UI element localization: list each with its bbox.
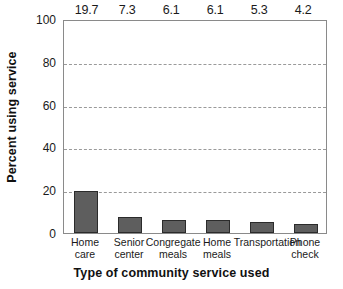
bar-chart-figure: Percent using service 020406080100 19.77… [0, 0, 343, 289]
y-axis-title: Percent using service [0, 0, 24, 234]
bar[interactable]: 6.1 [206, 220, 231, 233]
bar[interactable]: 5.3 [250, 222, 275, 233]
bar[interactable]: 6.1 [162, 220, 187, 233]
x-tick-label-line1: Home [71, 236, 99, 248]
y-axis-tick-labels: 020406080100 [24, 0, 60, 289]
bar[interactable]: 19.7 [74, 191, 99, 233]
bar[interactable]: 4.2 [294, 224, 319, 233]
bar-value-label: 4.2 [295, 3, 312, 17]
bar-group[interactable]: 5.3 [250, 19, 275, 233]
y-tick-label: 0 [49, 227, 56, 241]
x-tick-label-line1: Senior [114, 236, 144, 248]
bar-group[interactable]: 19.7 [74, 19, 99, 233]
bars-layer: 19.77.36.16.15.34.2 [64, 21, 326, 233]
x-tick-label-line1: Phone [290, 236, 320, 248]
x-tick-label-line1: Home [203, 236, 231, 248]
bar-value-label: 6.1 [163, 3, 180, 17]
plot-area: 19.77.36.16.15.34.2 [63, 20, 327, 234]
bar-value-label: 5.3 [251, 3, 268, 17]
y-tick-label: 100 [36, 13, 56, 27]
bar-value-label: 6.1 [207, 3, 224, 17]
bar-group[interactable]: 4.2 [294, 19, 319, 233]
bar-value-label: 7.3 [119, 3, 136, 17]
y-tick-label: 20 [43, 184, 56, 198]
x-tick-label-line2: check [278, 248, 333, 260]
bar-group[interactable]: 6.1 [206, 19, 231, 233]
y-tick-label: 60 [43, 99, 56, 113]
x-tick-label-line2: meals [190, 248, 245, 260]
x-tick-label: Phonecheck [278, 236, 333, 260]
y-axis-title-text: Percent using service [5, 51, 19, 182]
bar-group[interactable]: 7.3 [118, 19, 143, 233]
y-tick-label: 40 [43, 141, 56, 155]
bar[interactable]: 7.3 [118, 217, 143, 233]
y-tick-label: 80 [43, 56, 56, 70]
bar-group[interactable]: 6.1 [162, 19, 187, 233]
x-axis-title: Type of community service used [0, 266, 343, 280]
bar-value-label: 19.7 [75, 3, 99, 17]
x-axis-tick-labels: HomecareSeniorcenterCongregatemealsHomem… [63, 236, 327, 266]
